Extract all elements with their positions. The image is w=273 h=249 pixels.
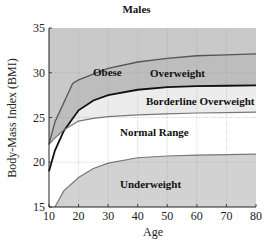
x-tick-label: 60 <box>191 209 203 223</box>
region-label-underweight: Underweight <box>120 178 181 190</box>
y-axis-label: Body-Mass Index (BMI) <box>5 58 19 177</box>
region-label-normal: Normal Range <box>120 126 189 138</box>
x-tick-label: 50 <box>161 209 173 223</box>
y-tick-label: 35 <box>33 21 45 35</box>
y-tick-label: 15 <box>33 200 45 214</box>
x-axis-label: Age <box>143 225 163 239</box>
y-tick-label: 20 <box>33 155 45 169</box>
region-label-overweight: Overweight <box>150 67 205 79</box>
region-label-obese: Obese <box>93 66 122 78</box>
x-tick-label: 80 <box>250 209 262 223</box>
x-tick-label: 40 <box>132 209 144 223</box>
region-label-borderline: Borderline Overweight <box>146 95 255 107</box>
x-tick-label: 20 <box>73 209 85 223</box>
y-tick-label: 30 <box>33 66 45 80</box>
x-tick-label: 30 <box>102 209 114 223</box>
x-tick-label: 70 <box>220 209 232 223</box>
bmi-chart: 10203040506070801520253035 Obese Overwei… <box>0 0 273 249</box>
y-tick-label: 25 <box>33 111 45 125</box>
